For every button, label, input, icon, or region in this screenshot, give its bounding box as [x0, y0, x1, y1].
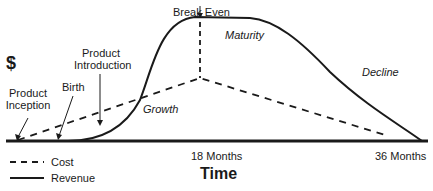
y-axis-label: $ [6, 57, 16, 69]
x-axis-label: Time [200, 168, 237, 180]
tick-36-months: 36 Months [375, 150, 426, 162]
tick-18-months: 18 Months [191, 150, 242, 162]
break-even-label: Break Even [173, 6, 230, 18]
decline-label: Decline [362, 66, 399, 78]
maturity-label: Maturity [225, 29, 264, 41]
product-inception-label: Product Inception [3, 87, 53, 111]
birth-label: Birth [62, 81, 85, 93]
product-life-cycle-diagram: $ Product Inception Birth Product Introd… [0, 0, 433, 191]
product-introduction-label: Product Introduction [74, 47, 128, 71]
intro-arrowhead [97, 120, 103, 126]
product-intro-line1: Product [74, 47, 128, 59]
growth-label: Growth [143, 103, 178, 115]
product-inception-line1: Product [3, 87, 53, 99]
product-intro-line2: Introduction [74, 59, 128, 71]
product-inception-line2: Inception [3, 99, 53, 111]
legend-revenue-label: Revenue [51, 172, 95, 184]
inception-arrow [18, 118, 28, 137]
birth-arrowhead [56, 133, 62, 140]
birth-arrow [59, 96, 73, 136]
legend-cost-label: Cost [51, 156, 74, 168]
